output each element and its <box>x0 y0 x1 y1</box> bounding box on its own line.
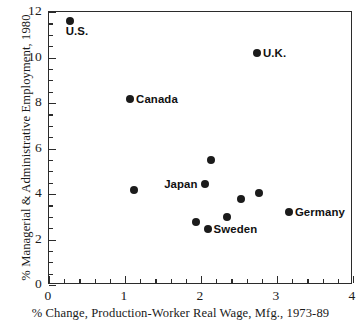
x-axis-tick-label: 4 <box>349 288 356 304</box>
x-axis-tick-label: 3 <box>273 288 280 304</box>
point-label-sweden: Sweden <box>214 223 258 235</box>
y-axis-tick-label: 4 <box>35 185 42 201</box>
x-axis-title: % Change, Production-Worker Real Wage, M… <box>0 306 361 321</box>
point-label-canada: Canada <box>136 93 178 105</box>
scatter-plot-figure: 024681012 01234 U.S.U.K.CanadaJapanGerma… <box>0 0 361 325</box>
data-point <box>192 218 200 226</box>
y-axis-major-tick <box>49 285 56 286</box>
data-points-layer: U.S.U.K.CanadaJapanGermanySweden <box>48 11 352 284</box>
point-label-germany: Germany <box>295 206 345 218</box>
point-label-uk: U.K. <box>263 47 286 59</box>
x-axis-tick-label: 2 <box>197 288 204 304</box>
data-point-sweden <box>204 225 212 233</box>
x-axis-major-tick <box>353 276 354 283</box>
data-point <box>237 195 245 203</box>
y-axis-tick-label: 2 <box>35 231 42 247</box>
data-point-japan <box>201 180 209 188</box>
y-axis-tick-label: 6 <box>35 140 42 156</box>
data-point-us <box>66 17 74 25</box>
data-point-canada <box>126 95 134 103</box>
data-point-uk <box>253 49 261 57</box>
data-point <box>223 213 231 221</box>
x-axis-tick-layer: 01234 <box>48 288 352 306</box>
data-point <box>255 189 263 197</box>
x-axis-tick-label: 0 <box>45 288 52 304</box>
y-axis-title: % Managerial & Administrative Employment… <box>19 0 34 298</box>
data-point <box>207 156 215 164</box>
data-point <box>130 186 138 194</box>
x-axis-tick-label: 1 <box>121 288 128 304</box>
y-axis-tick-label: 0 <box>35 276 42 292</box>
data-point-germany <box>285 208 293 216</box>
point-label-japan: Japan <box>164 178 197 190</box>
y-axis-tick-label: 8 <box>35 94 42 110</box>
point-label-us: U.S. <box>66 25 89 37</box>
